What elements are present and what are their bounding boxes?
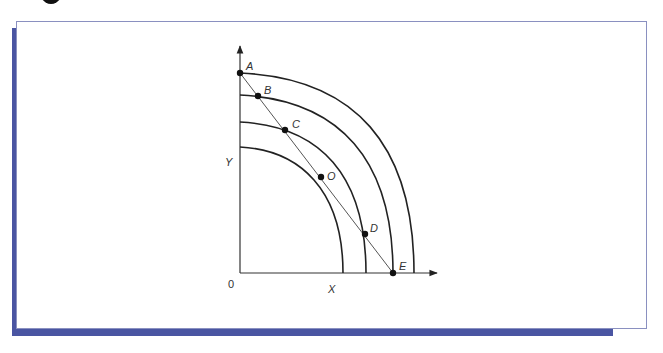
label-c: C bbox=[292, 118, 300, 130]
point-a bbox=[237, 70, 243, 76]
point-d bbox=[362, 231, 368, 237]
curve-innermost bbox=[240, 147, 343, 273]
budget-line bbox=[240, 73, 393, 273]
point-b bbox=[255, 93, 261, 99]
label-o: O bbox=[327, 170, 336, 182]
label-b: B bbox=[264, 84, 271, 96]
label-a: A bbox=[245, 60, 253, 72]
curve-inner bbox=[240, 122, 366, 273]
y-axis-label: Y bbox=[225, 156, 233, 168]
point-o bbox=[318, 174, 324, 180]
ppf-diagram: A B C O D E Y X 0 bbox=[0, 0, 663, 353]
point-e bbox=[390, 270, 396, 276]
label-e: E bbox=[399, 260, 407, 272]
label-d: D bbox=[370, 222, 378, 234]
x-axis-label: X bbox=[327, 283, 336, 295]
origin-label: 0 bbox=[228, 278, 234, 290]
point-c bbox=[282, 127, 288, 133]
